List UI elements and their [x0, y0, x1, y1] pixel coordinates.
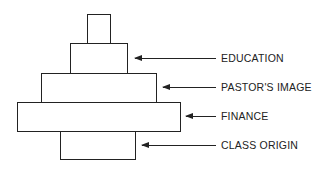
arrow-finance-icon	[186, 116, 216, 117]
arrow-education-icon	[135, 58, 216, 59]
arrow-pastors-image-icon	[163, 87, 216, 88]
layer-top-block	[87, 14, 111, 44]
label-class-origin: CLASS ORIGIN	[221, 139, 298, 151]
label-finance: FINANCE	[221, 110, 269, 122]
label-pastors-image: PASTOR'S IMAGE	[221, 81, 312, 93]
arrow-class-origin-icon	[142, 145, 216, 146]
layer-pastors-image-block	[41, 73, 157, 103]
layer-class-origin-block	[60, 131, 136, 160]
layer-education-block	[70, 43, 128, 74]
label-education: EDUCATION	[221, 52, 284, 64]
layer-finance-block	[17, 102, 181, 132]
